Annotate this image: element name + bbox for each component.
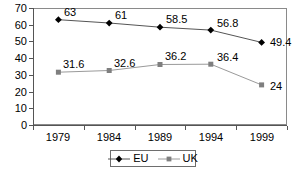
legend-label-eu: EU [133, 153, 148, 164]
legend-entry-eu[interactable]: EU [108, 153, 148, 164]
data-point-label: 58.5 [166, 14, 187, 25]
y-axis-tick [29, 108, 33, 109]
y-axis-label: 20 [15, 87, 27, 98]
x-axis-tick [33, 126, 34, 130]
y-axis-label: 50 [15, 36, 27, 47]
x-axis-label: 1979 [46, 132, 70, 143]
data-point-label: 49.4 [270, 37, 291, 48]
data-point-label: 56.8 [217, 18, 238, 29]
y-axis-tick [29, 25, 33, 26]
data-point-label: 63 [64, 7, 76, 18]
y-axis-label: 10 [15, 103, 27, 114]
chart-legend[interactable]: EU UK [110, 150, 196, 167]
data-point-label: 36.4 [217, 52, 238, 63]
y-axis-label: 0 [21, 120, 27, 131]
x-axis-label: 1984 [97, 132, 121, 143]
data-point-label: 61 [115, 10, 127, 21]
x-axis-tick [287, 126, 288, 130]
data-point-label: 24 [270, 81, 282, 92]
data-point-label: 36.2 [165, 51, 186, 62]
x-axis-label: 1994 [199, 132, 223, 143]
x-axis-tick [135, 126, 136, 130]
x-axis-tick [236, 126, 237, 130]
y-axis-tick [29, 8, 33, 9]
x-axis-line [33, 125, 287, 126]
x-axis-tick [185, 126, 186, 130]
y-axis-tick [29, 41, 33, 42]
legend-entry-uk[interactable]: UK [158, 153, 198, 164]
x-axis-label: 1989 [148, 132, 172, 143]
legend-marker-uk-icon [158, 154, 180, 164]
y-axis-line [33, 8, 34, 126]
y-axis-label: 40 [15, 53, 27, 64]
x-axis-tick [84, 126, 85, 130]
y-axis-tick [29, 92, 33, 93]
y-axis-label: 70 [15, 3, 27, 14]
data-point-label: 31.6 [63, 59, 84, 70]
data-point-label: 32.6 [114, 58, 135, 69]
y-axis-label: 30 [15, 70, 27, 81]
y-axis-label: 60 [15, 20, 27, 31]
y-axis-tick [29, 75, 33, 76]
y-axis-tick [29, 58, 33, 59]
x-axis-label: 1999 [250, 132, 274, 143]
legend-marker-eu-icon [108, 154, 130, 164]
legend-label-uk: UK [183, 153, 198, 164]
chart-screenshot: 706050403020100 19791984198919941999 636… [0, 0, 301, 174]
